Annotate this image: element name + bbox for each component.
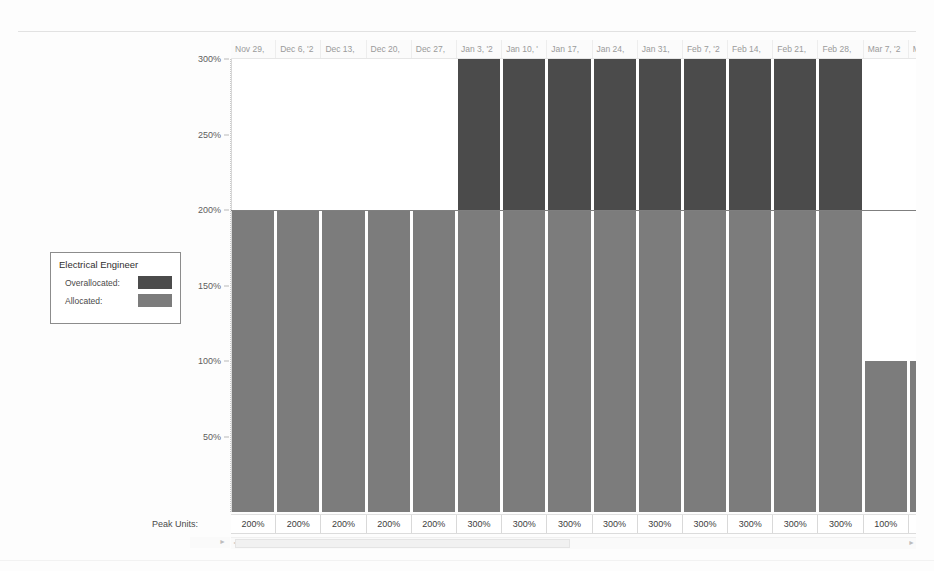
timescale-tick-label: Dec 13, [321, 40, 366, 58]
bar-column[interactable] [321, 59, 366, 512]
y-axis-tick-mark [224, 436, 229, 437]
peak-units-cell[interactable]: 200% [276, 515, 321, 533]
peak-units-cell[interactable]: 200% [321, 515, 366, 533]
timescale-tick-label: Dec 27, [412, 40, 457, 58]
y-axis-tick-label: 250% [198, 130, 221, 140]
bar-segment-overallocated [548, 59, 590, 210]
bar-segment-allocated [910, 361, 916, 512]
peak-units-cell[interactable]: 300% [638, 515, 683, 533]
peak-units-cell[interactable]: 100% [864, 515, 909, 533]
bar-column[interactable] [457, 59, 502, 512]
timescale-tick-label: Jan 3, '2 [457, 40, 502, 58]
bar-segment-allocated [639, 210, 681, 512]
peak-units-cell[interactable]: 200% [412, 515, 457, 533]
peak-units-cell[interactable]: 300% [773, 515, 818, 533]
bar-segment-allocated [232, 210, 274, 512]
peak-units-row-label: Peak Units: [152, 519, 198, 529]
legend-item-label: Allocated: [65, 296, 102, 306]
peak-units-cell[interactable]: 100 [909, 515, 916, 533]
y-axis-tick-label: 50% [203, 432, 221, 442]
bar-column[interactable] [818, 59, 863, 512]
timescale-header[interactable]: Nov 29,Dec 6, '2Dec 13,Dec 20,Dec 27,Jan… [231, 40, 916, 59]
bar-segment-allocated [684, 210, 726, 512]
y-axis-tick-mark [224, 134, 229, 135]
bar-column[interactable] [367, 59, 412, 512]
y-axis-tick-label: 150% [198, 281, 221, 291]
bar-segment-allocated [277, 210, 319, 512]
timescale-tick-label: Nov 29, [231, 40, 276, 58]
timescale-tick-label: Dec 20, [367, 40, 412, 58]
bar-segment-allocated [819, 210, 861, 512]
legend-swatch-overallocated-icon [138, 276, 172, 289]
timescale-tick-label: Feb 21, [773, 40, 818, 58]
bar-segment-overallocated [639, 59, 681, 210]
timescale-tick-label: Jan 24, [593, 40, 638, 58]
bar-segment-allocated [503, 210, 545, 512]
peak-units-cell[interactable]: 300% [818, 515, 863, 533]
legend-item-allocated: Allocated: [59, 294, 172, 307]
bar-column[interactable] [231, 59, 276, 512]
scroll-right-arrow-icon[interactable]: ► [218, 538, 227, 547]
bar-column[interactable] [276, 59, 321, 512]
legend-item-label: Overallocated: [65, 278, 120, 288]
bar-segment-overallocated [503, 59, 545, 210]
peak-units-row[interactable]: 200%200%200%200%200%300%300%300%300%300%… [231, 514, 916, 534]
bar-column[interactable] [412, 59, 457, 512]
resource-graph-view: 50%100%150%200%250%300% Nov 29,Dec 6, '2… [0, 0, 934, 571]
left-pane-scrollbar[interactable]: ► [190, 537, 230, 548]
y-axis-tick-mark [224, 59, 229, 60]
top-divider [18, 31, 916, 32]
capacity-reference-line [231, 210, 916, 211]
bar-column[interactable] [773, 59, 818, 512]
peak-units-cell[interactable]: 300% [683, 515, 728, 533]
bar-column[interactable] [502, 59, 547, 512]
timescale-tick-label: Jan 17, [547, 40, 592, 58]
legend-item-overallocated: Overallocated: [59, 276, 172, 289]
bar-segment-allocated [774, 210, 816, 512]
bar-series-container [231, 59, 916, 512]
bar-segment-overallocated [458, 59, 500, 210]
bar-segment-allocated [458, 210, 500, 512]
bar-column[interactable] [909, 59, 916, 512]
peak-units-cell[interactable]: 200% [231, 515, 276, 533]
bar-column[interactable] [593, 59, 638, 512]
timescale-tick-label: Feb 7, '2 [683, 40, 728, 58]
bar-segment-overallocated [774, 59, 816, 210]
y-axis-tick-label: 300% [198, 54, 221, 64]
scrollbar-thumb[interactable] [235, 539, 570, 548]
bar-segment-allocated [368, 210, 410, 512]
peak-units-cell[interactable]: 300% [728, 515, 773, 533]
bar-segment-allocated [548, 210, 590, 512]
scroll-right-arrow-icon[interactable]: ► [907, 539, 916, 548]
timescale-tick-label: Jan 10, ' [502, 40, 547, 58]
y-axis-tick-mark [224, 285, 229, 286]
legend-title: Electrical Engineer [59, 259, 172, 270]
chart-legend: Electrical Engineer Overallocated: Alloc… [50, 252, 181, 324]
bar-column[interactable] [683, 59, 728, 512]
peak-units-cell[interactable]: 300% [547, 515, 592, 533]
bar-column[interactable] [728, 59, 773, 512]
bar-column[interactable] [547, 59, 592, 512]
bar-segment-allocated [865, 361, 907, 512]
peak-units-cell[interactable]: 300% [502, 515, 547, 533]
bar-segment-allocated [413, 210, 455, 512]
peak-units-cell[interactable]: 200% [367, 515, 412, 533]
bar-segment-overallocated [684, 59, 726, 210]
timescale-tick-label: Dec 6, '2 [276, 40, 321, 58]
timescale-horizontal-scrollbar[interactable]: ◄ ► [231, 537, 916, 549]
peak-units-cell[interactable]: 300% [593, 515, 638, 533]
bar-segment-allocated [729, 210, 771, 512]
timescale-tick-label: Feb 14, [728, 40, 773, 58]
bar-chart-plot [231, 59, 916, 512]
y-axis-tick-label: 200% [198, 205, 221, 215]
bar-column[interactable] [638, 59, 683, 512]
peak-units-cell[interactable]: 300% [457, 515, 502, 533]
y-axis-tick-mark [224, 361, 229, 362]
bar-segment-overallocated [594, 59, 636, 210]
bar-segment-allocated [594, 210, 636, 512]
y-axis-tick-mark [224, 210, 229, 211]
timescale-tick-label: Feb 28, [818, 40, 863, 58]
y-axis-tick-label: 100% [198, 356, 221, 366]
bar-segment-overallocated [819, 59, 861, 210]
bar-column[interactable] [864, 59, 909, 512]
